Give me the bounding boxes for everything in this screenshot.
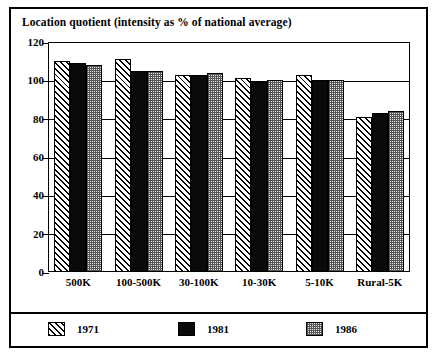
x-tick-label-500K: 500K — [48, 276, 108, 289]
legend-label-1971: 1971 — [77, 323, 99, 335]
bar-1971-500K — [54, 61, 70, 272]
bar-1986-10-30K — [267, 80, 283, 272]
bar-group — [235, 42, 283, 272]
y-tick-0 — [42, 273, 49, 274]
y-axis-labels: 020406080100120 — [16, 42, 44, 272]
x-tick-label-10-30K: 10-30K — [229, 276, 289, 289]
bar-1971-100-500K — [115, 59, 131, 272]
bar-group — [54, 42, 102, 272]
bar-group — [115, 42, 163, 272]
legend-item-1971[interactable]: 1971 — [48, 322, 99, 336]
plot-wrapper: 020406080100120 500K100-500K30-100K10-30… — [0, 0, 439, 358]
bar-group — [296, 42, 344, 272]
legend-swatch-1981 — [178, 322, 195, 336]
bar-groups — [48, 42, 410, 272]
x-tick-label-Rural-5K: Rural-5K — [350, 276, 410, 289]
bar-1971-10-30K — [235, 78, 251, 272]
bar-1981-Rural-5K — [372, 113, 388, 272]
bar-1986-30-100K — [207, 73, 223, 272]
legend-swatch-1971 — [48, 322, 65, 336]
x-tick-label-100-500K: 100-500K — [108, 276, 168, 289]
bar-group — [356, 42, 404, 272]
legend-item-1986[interactable]: 1986 — [306, 322, 357, 336]
legend-label-1981: 1981 — [207, 323, 229, 335]
bar-1986-500K — [86, 65, 102, 272]
bar-1986-Rural-5K — [388, 111, 404, 272]
bar-1971-Rural-5K — [356, 117, 372, 272]
bar-1986-100-500K — [147, 71, 163, 272]
bar-1981-100-500K — [131, 71, 147, 272]
bar-1981-500K — [70, 63, 86, 272]
x-tick-label-5-10K: 5-10K — [289, 276, 349, 289]
x-tick-label-30-100K: 30-100K — [169, 276, 229, 289]
legend-label-1986: 1986 — [335, 323, 357, 335]
bar-1981-5-10K — [312, 80, 328, 272]
bar-group — [175, 42, 223, 272]
bar-1981-10-30K — [251, 82, 267, 272]
legend-separator — [11, 312, 426, 314]
legend-item-1981[interactable]: 1981 — [178, 322, 229, 336]
legend-swatch-1986 — [306, 322, 323, 336]
bar-1986-5-10K — [328, 80, 344, 272]
bar-1971-30-100K — [175, 75, 191, 272]
bar-1981-30-100K — [191, 75, 207, 272]
x-axis-labels: 500K100-500K30-100K10-30K5-10KRural-5K — [48, 276, 410, 312]
bar-1971-5-10K — [296, 75, 312, 272]
